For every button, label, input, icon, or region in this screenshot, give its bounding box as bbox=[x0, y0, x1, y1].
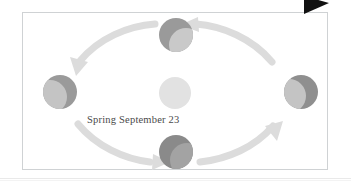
planet-bottom bbox=[159, 135, 204, 177]
planet-right bbox=[272, 75, 318, 113]
sun bbox=[159, 77, 191, 109]
orbit-arrow-bottom-right bbox=[200, 121, 283, 162]
page-divider-line-secondary bbox=[0, 180, 351, 181]
orbit-arrow-top-left bbox=[70, 24, 155, 76]
corner-marker bbox=[304, 0, 334, 18]
page-divider-line bbox=[0, 178, 351, 179]
season-label: Spring September 23 bbox=[87, 114, 179, 125]
orbit-arrow-bottom-left bbox=[78, 124, 170, 170]
planet-left bbox=[33, 75, 77, 114]
orbit-arrow-top-right bbox=[180, 17, 272, 62]
black-right-triangle-icon bbox=[304, 0, 334, 18]
orbit-diagram bbox=[0, 0, 351, 188]
figure-canvas: Spring September 23 bbox=[0, 0, 351, 188]
